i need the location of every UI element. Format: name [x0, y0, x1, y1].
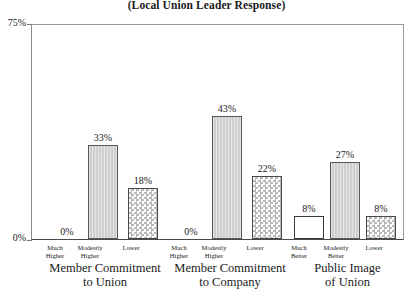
bar[interactable] [212, 116, 242, 239]
plot-area: 0%33%18% 0%43%22% 8%27%8% [32, 25, 403, 239]
category-line-1: Modestly [324, 244, 349, 251]
group-title-line-1: Member Commitment [49, 261, 160, 275]
group-title: Public Imageof Union [285, 261, 410, 289]
bar-group-public-image-of-union: 8%27%8% [290, 25, 403, 239]
bar-value-label: 8% [352, 203, 410, 214]
group-title-line-2: of Union [285, 275, 410, 289]
y-axis-tick-mark-min [27, 240, 32, 241]
y-axis-tick-label-max: 75% [0, 17, 26, 28]
group-title: Member Commitmentto Union [30, 261, 180, 289]
category-tick-label: Lower [105, 244, 157, 259]
group-title: Member Commitmentto Company [160, 261, 300, 289]
bar-value-label: 27% [316, 149, 374, 160]
bar[interactable] [330, 162, 360, 239]
chart-title: (Local Union Leader Response) [0, 0, 413, 11]
bar-value-label: 43% [198, 103, 256, 114]
bar-value-label: 18% [114, 175, 172, 186]
category-line-1: Lower [246, 244, 263, 251]
category-line-1: Modestly [78, 244, 103, 251]
category-line-1: Much [47, 244, 62, 251]
group-title-line-1: Public Image [314, 261, 380, 275]
category-tick-label: Lower [348, 244, 400, 259]
bar-group-member-commitment-to-company: 0%43%22% [168, 25, 286, 239]
bar[interactable] [128, 188, 158, 239]
bar-group-member-commitment-to-union: 0%33%18% [44, 25, 162, 239]
category-line-1: Much [171, 244, 186, 251]
group-title-line-1: Member Commitment [174, 261, 285, 275]
category-line-1: Much [291, 244, 306, 251]
y-axis-tick-label-min: 0% [0, 232, 26, 243]
bar[interactable] [366, 216, 396, 239]
category-line-1: Lower [365, 244, 382, 251]
category-line-1: Lower [122, 244, 139, 251]
bar[interactable] [252, 176, 282, 239]
category-line-1: Modestly [202, 244, 227, 251]
bar-value-label: 33% [74, 132, 132, 143]
bar[interactable] [88, 145, 118, 239]
bar-value-label: 22% [238, 163, 296, 174]
group-title-line-2: to Company [160, 275, 300, 289]
group-title-line-2: to Union [30, 275, 180, 289]
bar[interactable] [294, 216, 324, 239]
